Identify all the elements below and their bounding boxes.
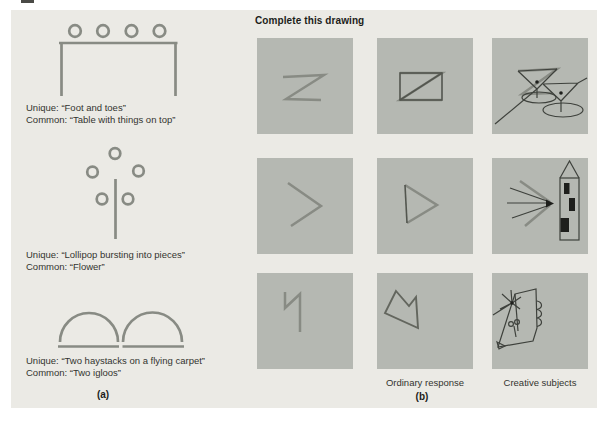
cell-stimulus-zigzag [257, 273, 353, 369]
cell-creative-martini-glasses [492, 38, 588, 134]
panel-b-title: Complete this drawing [255, 15, 364, 26]
zigzag-stimulus-drawing [257, 273, 353, 369]
tower-with-arrow-drawing [492, 158, 588, 254]
caption-3-common: Common: “Two igloos” [26, 367, 205, 379]
caption-foot-and-toes: Unique: “Foot and toes” Common: “Table w… [26, 102, 175, 125]
page-edge-artifact [21, 0, 34, 3]
cell-ordinary-arrow [377, 273, 473, 369]
caption-2-common: Common: “Flower” [26, 261, 185, 273]
chevron-stimulus-drawing [257, 158, 353, 254]
caption-3-unique: Unique: “Two haystacks on a flying carpe… [26, 355, 205, 367]
arrow-polygon-drawing [377, 273, 473, 369]
cell-ordinary-z [377, 38, 473, 134]
panel-b-label: (b) [374, 391, 470, 402]
caption-1-common: Common: “Table with things on top” [26, 114, 175, 126]
cell-creative-face [492, 273, 588, 369]
cell-ordinary-triangle [377, 158, 473, 254]
panel-a-label: (a) [55, 389, 151, 400]
z-stimulus-drawing [257, 38, 353, 134]
z-rectangle-drawing [377, 38, 473, 134]
cell-creative-tower [492, 158, 588, 254]
creativity-test-figure: { "figure": { "panel_a": { "label": "(a)… [0, 0, 613, 423]
creative-subjects-label: Creative subjects [492, 377, 588, 388]
triangle-drawing [377, 158, 473, 254]
cell-stimulus-chevron [257, 158, 353, 254]
cell-stimulus-z [257, 38, 353, 134]
abstract-face-drawing [492, 273, 588, 369]
caption-2-unique: Unique: “Lollipop bursting into pieces” [26, 249, 185, 261]
caption-1-unique: Unique: “Foot and toes” [26, 102, 175, 114]
caption-haystacks: Unique: “Two haystacks on a flying carpe… [26, 355, 205, 378]
martini-glasses-drawing [492, 38, 588, 134]
ordinary-response-label: Ordinary response [377, 377, 473, 388]
caption-lollipop: Unique: “Lollipop bursting into pieces” … [26, 249, 185, 272]
